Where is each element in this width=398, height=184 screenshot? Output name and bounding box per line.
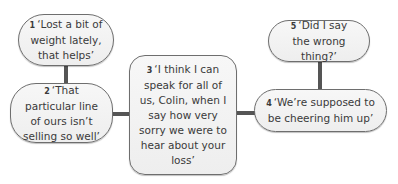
node-5-number: 5 [291, 22, 297, 31]
node-5-text: ‘Did I say the wrong thing?’ [293, 19, 348, 62]
node-3: 3‘I think I can speak for all of us, Col… [129, 55, 237, 175]
node-2-text: ‘That particular line of ours isn’t sell… [23, 84, 100, 142]
node-2: 2‘That particular line of ours isn’t sel… [10, 83, 113, 143]
connector-3-4 [236, 111, 255, 115]
connector-5-4 [318, 60, 322, 90]
node-2-number: 2 [44, 87, 50, 96]
node-3-number: 3 [147, 66, 153, 75]
node-3-content: 3‘I think I can speak for all of us, Col… [136, 62, 230, 168]
node-1: 1‘Lost a bit of weight lately, that help… [18, 14, 114, 66]
node-4: 4‘We’re supposed to be cheering him up’ [254, 89, 387, 132]
node-1-content: 1‘Lost a bit of weight lately, that help… [29, 17, 103, 63]
node-1-text: ‘Lost a bit of weight lately, that helps… [30, 18, 102, 61]
node-4-content: 4‘We’re supposed to be cheering him up’ [263, 95, 378, 126]
node-2-content: 2‘That particular line of ours isn’t sel… [19, 83, 104, 144]
node-3-text: ‘I think I can speak for all of us, Coli… [139, 63, 227, 166]
node-5: 5‘Did I say the wrong thing?’ [268, 20, 370, 62]
node-5-content: 5‘Did I say the wrong thing?’ [283, 18, 355, 64]
node-4-text: ‘We’re supposed to be cheering him up’ [268, 96, 375, 124]
node-1-number: 1 [30, 21, 36, 30]
connector-2-3 [112, 112, 130, 116]
node-4-number: 4 [266, 99, 272, 108]
